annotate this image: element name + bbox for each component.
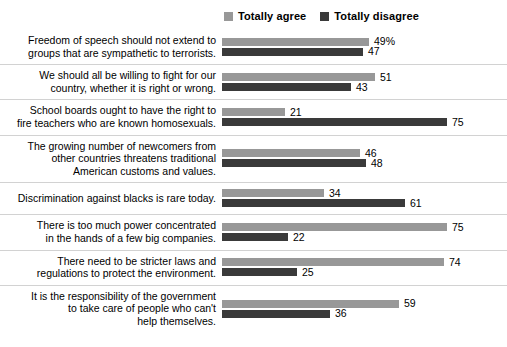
bar-totally-disagree — [222, 233, 288, 241]
bar-line: 59 — [222, 300, 507, 308]
bar-value-label: 74 — [449, 257, 461, 268]
row-label: School boards ought to have the right to… — [0, 104, 222, 129]
bar-line: 22 — [222, 233, 507, 241]
chart-row: Discrimination against blacks is rare to… — [0, 183, 507, 215]
row-bars: 3461 — [222, 187, 507, 209]
square-swatch-icon — [224, 12, 233, 21]
chart-legend: Totally agree Totally disagree — [224, 9, 419, 23]
bar-totally-disagree — [222, 83, 351, 91]
bar-totally-agree — [222, 258, 444, 266]
bar-value-label: 51 — [380, 72, 392, 83]
chart-row: There is too much power concentrated in … — [0, 215, 507, 250]
row-bars: 5936 — [222, 298, 507, 320]
row-bars: 5143 — [222, 71, 507, 93]
bar-line: 46 — [222, 149, 507, 157]
legend-label-totally-disagree: Totally disagree — [334, 11, 419, 22]
bar-totally-disagree — [222, 310, 330, 318]
chart-row: School boards ought to have the right to… — [0, 100, 507, 135]
row-bars: 49%47 — [222, 36, 507, 58]
bar-line: 36 — [222, 310, 507, 318]
bar-totally-agree — [222, 149, 360, 157]
bar-value-label: 25 — [302, 267, 314, 278]
bar-line: 34 — [222, 189, 507, 197]
row-label: It is the responsibility of the governme… — [0, 290, 222, 328]
row-label: We should all be willing to fight for ou… — [0, 69, 222, 94]
row-label: There need to be stricter laws and regul… — [0, 255, 222, 280]
bar-totally-disagree — [222, 118, 447, 126]
bar-totally-agree — [222, 300, 399, 308]
bar-value-label: 75 — [452, 222, 464, 233]
bar-totally-agree — [222, 189, 324, 197]
chart-row: We should all be willing to fight for ou… — [0, 65, 507, 100]
bar-totally-agree — [222, 108, 285, 116]
row-label: There is too much power concentrated in … — [0, 219, 222, 244]
row-bars: 7425 — [222, 256, 507, 278]
chart-row: There need to be stricter laws and regul… — [0, 251, 507, 286]
horizontal-bar-chart: Totally agree Totally disagree Freedom o… — [0, 0, 507, 347]
legend-label-totally-agree: Totally agree — [238, 11, 306, 22]
bar-line: 49% — [222, 38, 507, 46]
chart-row: Freedom of speech should not extend to g… — [0, 30, 507, 65]
bar-value-label: 75 — [452, 117, 464, 128]
legend-item-totally-disagree: Totally disagree — [320, 11, 419, 22]
bar-line: 75 — [222, 118, 507, 126]
bar-line: 47 — [222, 48, 507, 56]
bar-value-label: 61 — [410, 198, 422, 209]
bar-line: 51 — [222, 73, 507, 81]
square-swatch-icon — [320, 12, 329, 21]
chart-row: It is the responsibility of the governme… — [0, 286, 507, 333]
bar-totally-agree — [222, 38, 369, 46]
bar-line: 61 — [222, 199, 507, 207]
bar-totally-agree — [222, 73, 375, 81]
bar-line: 21 — [222, 108, 507, 116]
bar-value-label: 21 — [290, 107, 302, 118]
bar-totally-disagree — [222, 199, 405, 207]
bar-value-label: 36 — [335, 308, 347, 319]
row-label: Freedom of speech should not extend to g… — [0, 34, 222, 59]
bar-value-label: 47 — [368, 46, 380, 57]
bar-line: 43 — [222, 83, 507, 91]
bar-value-label: 22 — [293, 232, 305, 243]
bar-totally-agree — [222, 223, 447, 231]
bar-value-label: 43 — [356, 82, 368, 93]
chart-rows: Freedom of speech should not extend to g… — [0, 30, 507, 333]
bar-value-label: 59 — [404, 298, 416, 309]
bar-value-label: 48 — [371, 158, 383, 169]
bar-value-label: 34 — [329, 188, 341, 199]
row-bars: 4648 — [222, 147, 507, 169]
row-label: The growing number of newcomers from oth… — [0, 140, 222, 178]
bar-totally-disagree — [222, 268, 297, 276]
row-bars: 7522 — [222, 221, 507, 243]
bar-line: 48 — [222, 159, 507, 167]
legend-item-totally-agree: Totally agree — [224, 11, 306, 22]
chart-row: The growing number of newcomers from oth… — [0, 136, 507, 184]
bar-line: 75 — [222, 223, 507, 231]
bar-line: 74 — [222, 258, 507, 266]
bar-line: 25 — [222, 268, 507, 276]
row-bars: 2175 — [222, 106, 507, 128]
bar-totally-disagree — [222, 48, 363, 56]
row-label: Discrimination against blacks is rare to… — [0, 192, 222, 205]
bar-totally-disagree — [222, 159, 366, 167]
